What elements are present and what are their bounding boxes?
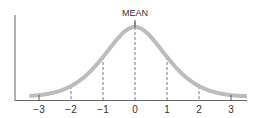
tick-label: −3 <box>33 104 45 115</box>
tick-label: 3 <box>228 104 234 115</box>
bell-curve <box>29 27 247 96</box>
mean-label: MEAN <box>122 8 148 18</box>
normal-distribution-chart: −3−2−10123 MEAN <box>0 0 258 118</box>
tick-label: −2 <box>65 104 77 115</box>
dashed-reference-lines <box>71 22 199 100</box>
tick-label: 2 <box>196 104 202 115</box>
tick-label: 0 <box>132 104 138 115</box>
tick-label: −1 <box>97 104 109 115</box>
tick-label: 1 <box>164 104 170 115</box>
x-tick-labels: −3−2−10123 <box>33 104 234 115</box>
